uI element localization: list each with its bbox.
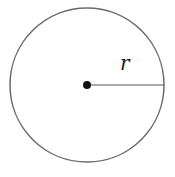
center-point (83, 81, 91, 89)
circle-diagram: r (0, 0, 175, 177)
radius-label: r (120, 51, 131, 75)
